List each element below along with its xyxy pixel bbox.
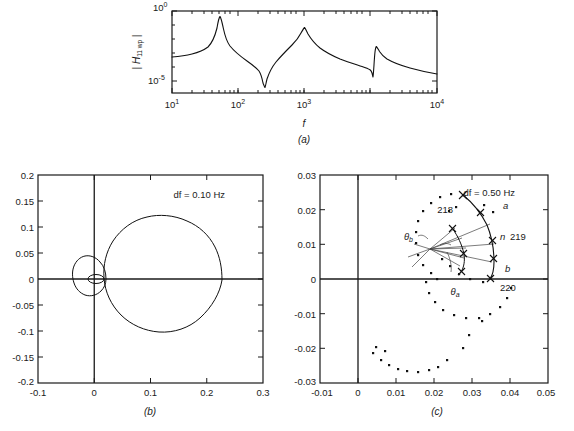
panel-a-y-axis-label: | H11 wp |: [131, 35, 144, 70]
panel-c-x-tick-labels: -0.01 0 0.01 0.02 0.03 0.04 0.05: [311, 387, 555, 398]
panel-a-xtick-1: 102: [231, 98, 246, 110]
panel-b: df = 0.10 Hz 0.2 0.15 0.1 0.05 0 -0.05 -…: [12, 170, 269, 417]
panel-c-ytick-5: -0.02: [294, 343, 316, 354]
panel-c-label-b: b: [505, 263, 510, 274]
panel-c-sample-points: [372, 193, 512, 373]
panel-a-ytick-1: 10-5: [148, 74, 165, 86]
panel-a-x-axis-label: f: [303, 118, 307, 129]
frf-magnitude-curve: [172, 17, 437, 88]
panel-c-xtick-6: 0.05: [537, 387, 556, 398]
panel-a-x-tick-labels: 101 102 103 104: [165, 98, 445, 110]
panel-b-ytick-8: -0.2: [18, 376, 34, 387]
panel-c-arc-b-markers: [449, 225, 467, 275]
panel-b-caption: (b): [144, 406, 156, 417]
panel-a-xtick-2: 103: [297, 98, 312, 110]
panel-a-x-ticks: [172, 11, 437, 93]
panel-c-xtick-4: 0.03: [463, 387, 482, 398]
panel-a-plot-frame: [172, 11, 437, 93]
panel-c-label-n: n: [500, 231, 505, 242]
panel-c-df-annotation: df = 0.50 Hz: [464, 187, 516, 198]
panel-b-ytick-7: -0.15: [12, 352, 34, 363]
panel-a-xtick-3: 104: [430, 98, 445, 110]
panel-b-xtick-2: 0.1: [144, 387, 157, 398]
nyquist-large-mode-circle: [104, 215, 222, 332]
panel-c-label-220: 220: [500, 282, 516, 293]
panel-c-caption: (c): [431, 406, 443, 417]
panel-a-xtick-0: 101: [165, 98, 180, 110]
panel-c-arc-b: [452, 228, 464, 272]
panel-c-ytick-3: 0: [311, 274, 316, 285]
panel-b-y-tick-labels: 0.2 0.15 0.1 0.05 0 -0.05 -0.1 -0.15 -0.…: [12, 170, 34, 387]
panel-c-label-a: a: [503, 200, 508, 211]
panel-c-y-tick-labels: 0.03 0.02 0.01 0 -0.01 -0.02 -0.03: [294, 170, 316, 387]
panel-c-ytick-2: 0.01: [298, 239, 317, 250]
panel-c-ytick-0: 0.03: [298, 170, 317, 181]
panel-b-xtick-0: -0.1: [30, 387, 46, 398]
panel-b-x-tick-labels: -0.1 0 0.1 0.2 0.3: [30, 387, 270, 398]
panel-b-ytick-0: 0.2: [21, 170, 34, 181]
panel-b-ytick-5: -0.05: [12, 300, 34, 311]
panel-a-ytick-0: 100: [153, 1, 168, 13]
svg-text:| H11 wp |: | H11 wp |: [131, 35, 144, 70]
panel-c-label-219: 219: [510, 231, 526, 242]
panel-a: 100 10-5 | H11 wp | 101 102 103 104 f (a…: [131, 1, 444, 145]
panel-a-y-tick-labels: 100 10-5: [148, 1, 168, 86]
panel-c-label-theta-b: θb: [404, 231, 413, 243]
figure-three-panel-frf-nyquist: 100 10-5 | H11 wp | 101 102 103 104 f (a…: [0, 0, 574, 431]
panel-c-ytick-4: -0.01: [294, 309, 316, 320]
panel-c-xtick-1: 0: [355, 387, 360, 398]
panel-c-theta-b-leader: [418, 235, 428, 239]
panel-c-xtick-3: 0.02: [425, 387, 444, 398]
panel-b-ytick-3: 0.05: [16, 248, 35, 259]
panel-c-ytick-6: -0.03: [294, 376, 316, 387]
panel-c-xtick-2: 0.01: [387, 387, 406, 398]
panel-a-y-ticks: [172, 11, 437, 81]
panel-b-ytick-4: 0: [29, 274, 34, 285]
panel-b-xtick-3: 0.2: [200, 387, 213, 398]
panel-b-xtick-1: 0: [92, 387, 97, 398]
panel-c-ytick-1: 0.02: [298, 205, 317, 216]
panel-a-caption: (a): [298, 134, 310, 145]
panel-b-ytick-2: 0.1: [21, 222, 34, 233]
panel-c-xtick-5: 0.04: [501, 387, 520, 398]
panel-b-ytick-6: -0.1: [18, 326, 34, 337]
panel-c: df = 0.50 Hz 218 a n 219 b 220 θb θa 0.0…: [294, 170, 555, 417]
panel-c-label-218: 218: [437, 204, 453, 215]
panel-b-ytick-1: 0.15: [16, 196, 35, 207]
panel-b-df-annotation: df = 0.10 Hz: [174, 189, 226, 200]
panel-b-xtick-4: 0.3: [256, 387, 269, 398]
panel-c-label-theta-a: θa: [450, 286, 459, 298]
panel-c-xtick-0: -0.01: [311, 387, 333, 398]
